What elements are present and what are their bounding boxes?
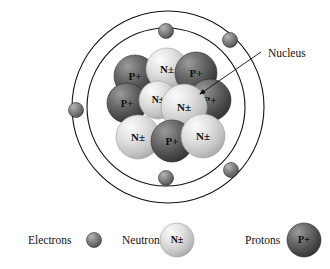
neutron-3-label: N± xyxy=(177,101,191,113)
legend-neutrons-swatch-label: N± xyxy=(171,234,184,245)
neutron-1-label: N± xyxy=(160,63,174,75)
legend-protons-swatch-label: P+ xyxy=(298,234,310,245)
neutron-5-label: N± xyxy=(196,130,210,142)
legend-electrons-swatch xyxy=(87,233,102,248)
legend-neutrons: NeutronsN± xyxy=(122,223,194,257)
legend-electrons: Electrons xyxy=(28,233,102,248)
legend-neutrons-text: Neutrons xyxy=(122,234,165,246)
electron-left-outer-body xyxy=(69,103,84,118)
neutron-4-label: N± xyxy=(131,131,145,143)
legend: ElectronsNeutronsN±ProtonsP+ xyxy=(28,223,321,257)
proton-1-label: P+ xyxy=(129,70,142,82)
proton-3-label: P+ xyxy=(121,98,133,109)
nucleus-label: Nucleus xyxy=(268,47,306,59)
diagram-canvas: P+N±P+P+N±P+N±N±P+N± Nucleus ElectronsNe… xyxy=(0,0,330,269)
legend-protons: ProtonsP+ xyxy=(245,223,321,257)
legend-protons-text: Protons xyxy=(245,234,281,246)
electron-top-right-outer xyxy=(223,33,238,48)
electron-bottom-right-outer xyxy=(224,163,239,178)
legend-electrons-swatch-body xyxy=(87,233,102,248)
atom-diagram: P+N±P+P+N±P+N±N±P+N± Nucleus ElectronsNe… xyxy=(0,0,330,269)
neutron-5: N± xyxy=(181,114,225,158)
electron-bottom-right-outer-body xyxy=(224,163,239,178)
nucleus-cluster: P+N±P+P+N±P+N±N±P+N± xyxy=(107,48,231,162)
electron-bottom-inner-body xyxy=(159,171,174,186)
electron-left-outer xyxy=(69,103,84,118)
electron-top-inner xyxy=(159,24,174,39)
proton-2-label: P+ xyxy=(190,67,203,79)
legend-electrons-text: Electrons xyxy=(28,234,72,246)
legend-neutrons-swatch: N± xyxy=(160,223,194,257)
legend-protons-swatch: P+ xyxy=(287,223,321,257)
electron-top-right-outer-body xyxy=(223,33,238,48)
electron-top-inner-body xyxy=(159,24,174,39)
electron-bottom-inner xyxy=(159,171,174,186)
proton-5-label: P+ xyxy=(166,135,179,147)
